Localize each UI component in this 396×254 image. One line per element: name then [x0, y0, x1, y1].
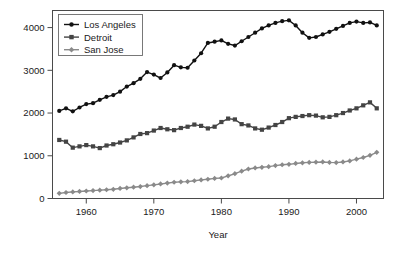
data-point-marker	[145, 70, 149, 74]
data-point-marker	[348, 108, 352, 112]
data-point-marker	[253, 126, 257, 130]
data-point-marker	[77, 105, 81, 109]
data-point-marker	[179, 65, 183, 69]
x-axis-title: Year	[208, 229, 227, 240]
data-point-marker	[165, 70, 169, 74]
data-point-marker	[327, 115, 331, 119]
data-point-marker	[354, 106, 358, 110]
data-point-marker	[158, 76, 162, 80]
x-tick-label: 1980	[211, 206, 232, 217]
data-point-marker	[64, 140, 68, 144]
line-chart: 01000200030004000 19601970198019902000 L…	[0, 0, 396, 254]
data-point-marker	[314, 114, 318, 118]
legend-label-san-jose: San Jose	[84, 44, 124, 55]
data-point-marker	[104, 95, 108, 99]
data-point-marker	[84, 143, 88, 147]
data-point-marker	[179, 126, 183, 130]
data-point-marker	[118, 140, 122, 144]
data-point-marker	[213, 40, 217, 44]
data-point-marker	[267, 23, 271, 27]
data-point-marker	[186, 66, 190, 70]
chart-legend: Los AngelesDetroitSan Jose	[59, 15, 143, 56]
data-point-marker	[138, 77, 142, 81]
data-point-marker	[240, 39, 244, 43]
data-point-marker	[246, 35, 250, 39]
data-point-marker	[165, 127, 169, 131]
data-point-marker	[206, 41, 210, 45]
data-point-marker	[57, 138, 61, 142]
data-point-marker	[91, 144, 95, 148]
data-point-marker	[192, 58, 196, 62]
y-tick-label: 1000	[23, 150, 44, 161]
x-tick-label: 1970	[143, 206, 164, 217]
data-point-marker	[172, 128, 176, 132]
data-point-marker	[172, 63, 176, 67]
data-point-marker	[280, 120, 284, 124]
data-point-marker	[98, 146, 102, 150]
data-point-marker	[111, 93, 115, 97]
data-point-marker	[64, 106, 68, 110]
data-point-marker	[145, 131, 149, 135]
data-point-marker	[368, 20, 372, 24]
data-point-marker	[219, 38, 223, 42]
data-point-marker	[260, 128, 264, 132]
data-point-marker	[361, 103, 365, 107]
y-tick-label: 3000	[23, 65, 44, 76]
data-point-marker	[131, 81, 135, 85]
data-point-marker	[246, 123, 250, 127]
x-tick-label: 1990	[278, 206, 299, 217]
data-point-marker	[361, 21, 365, 25]
data-point-marker	[104, 143, 108, 147]
x-tick-label: 1960	[76, 206, 97, 217]
data-point-marker	[300, 31, 304, 35]
legend-label-detroit: Detroit	[84, 32, 112, 43]
data-point-marker	[84, 102, 88, 106]
data-point-marker	[152, 128, 156, 132]
data-point-marker	[327, 30, 331, 34]
data-point-marker	[375, 106, 379, 110]
data-point-marker	[273, 123, 277, 127]
data-point-marker	[300, 114, 304, 118]
data-point-marker	[71, 146, 75, 150]
x-tick-label: 2000	[346, 206, 367, 217]
data-point-marker	[206, 126, 210, 130]
data-point-marker	[186, 125, 190, 129]
data-point-marker	[233, 117, 237, 121]
data-point-marker	[199, 124, 203, 128]
data-point-marker	[334, 27, 338, 31]
data-point-marker	[98, 98, 102, 102]
data-point-marker	[287, 116, 291, 120]
y-tick-label: 0	[39, 193, 44, 204]
y-tick-label: 4000	[23, 22, 44, 33]
y-tick-label: 2000	[23, 107, 44, 118]
chart-page: 01000200030004000 19601970198019902000 L…	[0, 0, 396, 254]
data-point-marker	[273, 21, 277, 25]
data-point-marker	[368, 100, 372, 104]
data-point-marker	[294, 115, 298, 119]
data-point-marker	[57, 109, 61, 113]
data-point-marker	[226, 42, 230, 46]
data-point-marker	[280, 19, 284, 23]
data-point-marker	[91, 101, 95, 105]
data-point-marker	[69, 35, 73, 39]
data-point-marker	[118, 90, 122, 94]
data-point-marker	[131, 135, 135, 139]
data-point-marker	[199, 51, 203, 55]
data-point-marker	[219, 120, 223, 124]
data-point-marker	[348, 21, 352, 25]
data-point-marker	[152, 72, 156, 76]
data-point-marker	[125, 84, 129, 88]
data-point-marker	[71, 109, 75, 113]
data-point-marker	[253, 31, 257, 35]
data-point-marker	[77, 144, 81, 148]
data-point-marker	[240, 122, 244, 126]
data-point-marker	[267, 125, 271, 129]
data-point-marker	[341, 111, 345, 115]
data-point-marker	[334, 113, 338, 117]
data-point-marker	[138, 132, 142, 136]
data-point-marker	[233, 43, 237, 47]
data-point-marker	[125, 138, 129, 142]
data-point-marker	[354, 20, 358, 24]
data-point-marker	[321, 115, 325, 119]
data-point-marker	[111, 142, 115, 146]
